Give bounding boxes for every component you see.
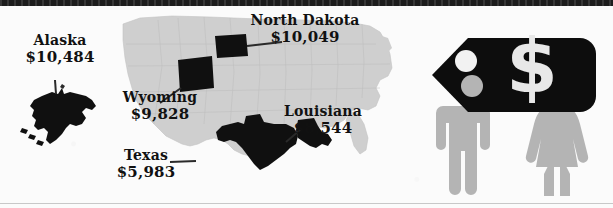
callout-texas-name: Texas bbox=[92, 148, 200, 164]
alaska-leader-tick bbox=[54, 80, 57, 94]
male-body bbox=[436, 106, 490, 195]
female-legs bbox=[544, 166, 570, 196]
callout-louisiana-name: Louisiana bbox=[268, 104, 378, 120]
callout-louisiana: Louisiana $8,544 bbox=[268, 104, 378, 136]
callout-alaska-value: $10,484 bbox=[10, 49, 110, 66]
tag-hole-upper bbox=[455, 50, 477, 72]
callout-wyoming-name: Wyoming bbox=[104, 90, 216, 106]
callout-wyoming-value: $9,828 bbox=[104, 106, 216, 123]
alaska-inset-shape bbox=[18, 74, 110, 152]
callout-texas-value: $5,983 bbox=[92, 164, 200, 181]
callout-alaska-name: Alaska bbox=[10, 33, 110, 49]
callout-texas: Texas $5,983 bbox=[92, 148, 200, 180]
callout-alaska: Alaska $10,484 bbox=[10, 33, 110, 65]
callout-louisiana-value: $8,544 bbox=[268, 120, 378, 137]
callout-north-dakota: North Dakota $10,049 bbox=[240, 13, 370, 45]
infographic-page: Alaska $10,484 North Dakota $10,049 Wyom… bbox=[0, 0, 613, 208]
callout-north-dakota-name: North Dakota bbox=[240, 13, 370, 29]
alaska-leader-dot bbox=[60, 84, 65, 89]
female-body bbox=[526, 104, 588, 167]
dollar-sign-icon: $ bbox=[506, 23, 558, 109]
price-tag-people-graphic: $ bbox=[424, 16, 604, 196]
callout-wyoming: Wyoming $9,828 bbox=[104, 90, 216, 122]
top-dark-band bbox=[0, 0, 613, 6]
callout-north-dakota-value: $10,049 bbox=[240, 29, 370, 46]
alaska-silhouette bbox=[30, 88, 96, 144]
bottom-hairline-rule bbox=[0, 203, 613, 204]
tag-hole-lower bbox=[461, 75, 483, 97]
top-band-texture bbox=[0, 0, 613, 6]
price-tag-shape: $ bbox=[432, 23, 596, 112]
state-wyoming bbox=[178, 56, 214, 92]
alaska-aleutians bbox=[20, 128, 44, 146]
